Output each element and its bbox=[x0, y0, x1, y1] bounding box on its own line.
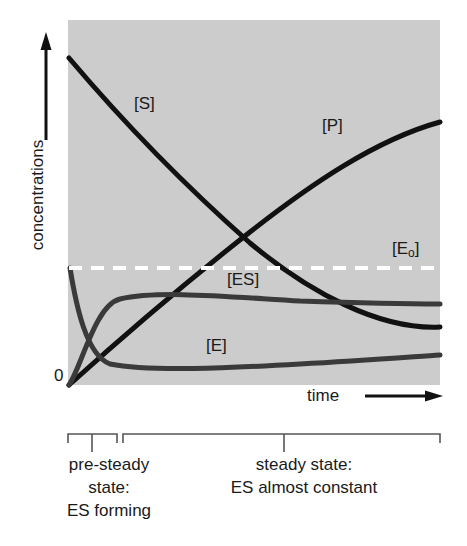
caption-steady-state: steady state: ES almost constant bbox=[168, 453, 440, 499]
curve-label-total-enzyme: [Eo] bbox=[392, 239, 419, 260]
caption-steady-line-2: ES almost constant bbox=[168, 476, 440, 499]
caption-steady-line-1: steady state: bbox=[168, 453, 440, 476]
total-enzyme-open: [E bbox=[392, 239, 408, 258]
bracket-steady bbox=[123, 434, 440, 443]
curve-label-substrate: [S] bbox=[134, 94, 155, 114]
enzyme-kinetics-figure: concentrations [S] [P] bbox=[0, 0, 467, 546]
x-axis-arrow-icon bbox=[365, 391, 443, 402]
x-axis-origin-label: 0 bbox=[54, 366, 63, 386]
curve-label-free-enzyme: [E] bbox=[206, 336, 227, 356]
phase-brackets bbox=[68, 434, 440, 452]
curve-label-product: [P] bbox=[322, 116, 343, 136]
x-axis-label: time bbox=[307, 386, 339, 406]
curve-label-enzyme-substrate: [ES] bbox=[227, 270, 259, 290]
plot-background bbox=[68, 20, 440, 385]
total-enzyme-subscript: o bbox=[408, 246, 415, 260]
total-enzyme-close: ] bbox=[415, 239, 420, 258]
caption-pre-steady-line-3: ES forming bbox=[14, 499, 204, 522]
